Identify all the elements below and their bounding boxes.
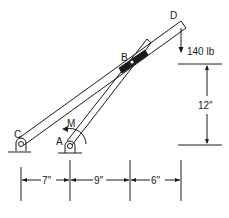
- label-point-b: B: [121, 52, 128, 63]
- dimension-label-2: 9″: [94, 175, 104, 186]
- mechanism-diagram: D B C A M 140 lb 12″ 7″ 9″ 6″: [0, 0, 229, 218]
- label-point-d: D: [170, 10, 177, 21]
- pin-support-c: [8, 138, 31, 152]
- load-arrow: [179, 28, 184, 53]
- dimension-vertical-label: 12″: [198, 100, 213, 111]
- bar-cd: [19, 21, 186, 145]
- label-point-a: A: [56, 136, 63, 147]
- label-point-c: C: [14, 129, 21, 140]
- label-moment: M: [67, 118, 75, 129]
- load-value: 140 lb: [187, 46, 215, 57]
- dimension-label-3: 6″: [151, 175, 161, 186]
- dimension-label-1: 7″: [42, 175, 52, 186]
